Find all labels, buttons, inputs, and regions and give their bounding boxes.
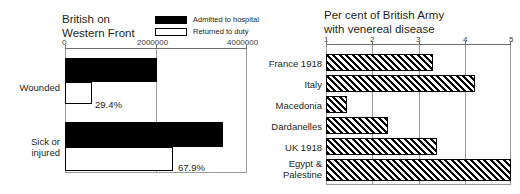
left-bar-wounded-admitted <box>65 58 157 82</box>
left-category-label-sick-or-injured: Sick or injured <box>4 137 60 158</box>
right-category-label-macedonia: Macedonia <box>258 101 322 112</box>
hatch-fill-icon <box>327 97 346 112</box>
right-category-label-italy: Italy <box>258 80 322 91</box>
left-category-sick-line1: Sick or <box>4 137 60 148</box>
legend-label-returned: Returned to duty <box>193 28 248 36</box>
left-bar-wounded-returned <box>65 82 92 104</box>
left-category-label-wounded: Wounded <box>4 83 60 94</box>
legend-item-admitted: Admitted to hospital <box>155 15 255 25</box>
right-tick-1 <box>326 41 327 45</box>
right-chart-title-line1: Per cent of British Army <box>324 9 444 23</box>
right-category-label-dardanelles: Dardanelles <box>258 122 322 133</box>
right-category-dardanelles-line1: Dardanelles <box>258 122 322 133</box>
right-category-label-egypt-palestine: Egypt & Palestine <box>258 159 322 180</box>
right-chart-title-line2: with venereal disease <box>324 23 444 37</box>
left-category-wounded-line1: Wounded <box>4 83 60 94</box>
right-category-macedonia-line1: Macedonia <box>258 101 322 112</box>
chart-venereal-disease: Per cent of British Army with venereal d… <box>258 0 520 194</box>
right-plot-area <box>326 45 511 185</box>
right-category-italy-line1: Italy <box>258 80 322 91</box>
left-xtick-label-2000000: 2000000 <box>137 39 168 47</box>
left-chart-title: British on Western Front <box>62 13 135 40</box>
right-tick-5 <box>510 41 511 45</box>
right-bar-egypt-palestine <box>326 159 511 181</box>
right-bar-uk-1918 <box>326 138 437 155</box>
left-data-label-wounded-pct: 29.4% <box>95 100 122 110</box>
hatch-fill-icon <box>327 139 436 154</box>
right-category-uk-line1: UK 1918 <box>258 143 322 154</box>
hatch-fill-icon <box>327 118 387 133</box>
right-bar-france-1918 <box>326 54 433 71</box>
legend-label-admitted: Admitted to hospital <box>193 16 259 24</box>
hatch-fill-icon <box>327 76 474 91</box>
hatch-fill-icon <box>327 55 432 70</box>
left-bar-sick-admitted <box>65 122 223 147</box>
right-category-egypt-line2: Palestine <box>258 170 322 181</box>
right-bar-dardanelles <box>326 117 388 134</box>
figure-root: British on Western Front Admitted to hos… <box>0 0 520 194</box>
legend: Admitted to hospital Returned to duty <box>155 15 255 39</box>
right-chart-title: Per cent of British Army with venereal d… <box>324 9 444 36</box>
legend-swatch-returned-icon <box>155 28 187 36</box>
right-category-label-uk-1918: UK 1918 <box>258 143 322 154</box>
right-bar-italy <box>326 75 475 92</box>
left-chart-title-line2: Western Front <box>62 27 135 41</box>
left-plot-area <box>65 49 247 173</box>
left-xtick-label-4000000: 4000000 <box>227 39 258 47</box>
left-tick-0 <box>65 45 66 49</box>
right-category-france-line1: France 1918 <box>258 59 322 70</box>
left-data-label-sick-pct: 67.9% <box>178 163 205 173</box>
right-category-label-france-1918: France 1918 <box>258 59 322 70</box>
right-category-egypt-line1: Egypt & <box>258 159 322 170</box>
left-chart-title-line1: British on <box>62 13 135 27</box>
left-category-sick-line2: injured <box>4 148 60 159</box>
chart-british-western-front: British on Western Front Admitted to hos… <box>0 0 258 194</box>
left-tick-4000000 <box>246 45 247 49</box>
right-bar-macedonia <box>326 96 347 113</box>
hatch-fill-icon <box>327 160 510 180</box>
legend-item-returned: Returned to duty <box>155 27 255 37</box>
left-bar-sick-returned <box>65 147 173 171</box>
legend-swatch-admitted-icon <box>155 16 187 24</box>
